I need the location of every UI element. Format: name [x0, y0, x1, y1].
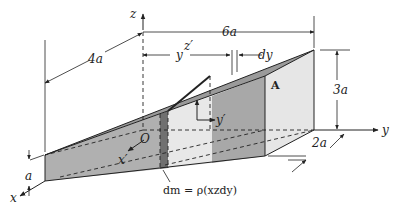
dim-6a: 6a [222, 25, 237, 39]
z-axis-label: z [129, 7, 137, 21]
dim-dy: dy [258, 48, 273, 62]
dim-3a: 3a [333, 83, 348, 97]
point-A-label: A [270, 79, 280, 92]
mass-element-formula: dm = ρ(xzdy) [163, 184, 237, 197]
dim-4a: 4a [87, 52, 103, 66]
wedge-diagram: z y x z′ y′ x′ O 6a 4a y dy 3a 2a a A dm… [0, 0, 394, 207]
y-prime-label: y′ [215, 113, 226, 127]
x-prime-label: x′ [118, 153, 128, 167]
dim-a: a [25, 169, 32, 183]
dim-y: y [175, 48, 183, 62]
x-axis-label: x [10, 191, 17, 205]
mass-element-slice [160, 111, 168, 169]
z-prime-label: z′ [183, 39, 193, 53]
origin-label: O [140, 132, 150, 146]
y-axis-label: y [381, 123, 389, 137]
x-axis [20, 181, 45, 196]
dim-2a: 2a [311, 136, 327, 150]
